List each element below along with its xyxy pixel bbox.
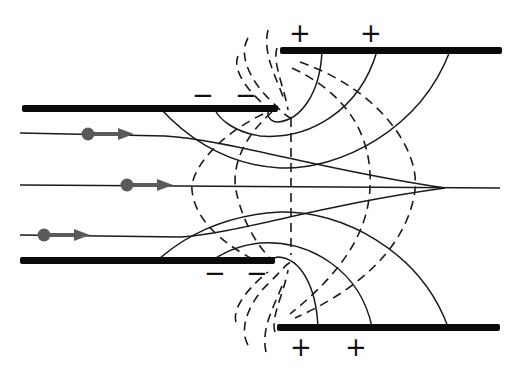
- diagram-canvas: [0, 0, 520, 369]
- particle: [38, 229, 91, 242]
- plate-right-upper: [280, 47, 502, 54]
- plus-sign-label: +: [289, 20, 311, 46]
- particle-dot: [38, 229, 51, 242]
- minus-sign-label: −: [246, 260, 268, 286]
- plus-sign-label: +: [345, 334, 367, 360]
- equipotential-lines: [192, 30, 416, 352]
- particle: [121, 179, 174, 192]
- arrow-head-icon: [118, 128, 134, 140]
- plus-sign-label: +: [360, 20, 382, 46]
- particle-trajectories: [20, 133, 500, 237]
- minus-sign-label: −: [235, 82, 257, 108]
- arrow-head-icon: [74, 229, 90, 241]
- plate-left-lower: [20, 257, 275, 264]
- particle: [82, 128, 135, 141]
- particle-dot: [82, 128, 95, 141]
- electrostatic-lens-diagram: −−++−−++: [0, 0, 520, 369]
- minus-sign-label: −: [204, 260, 226, 286]
- particle-dot: [121, 179, 134, 192]
- arrow-head-icon: [157, 179, 173, 191]
- plate-right-lower: [277, 324, 500, 331]
- plus-sign-label: +: [290, 334, 312, 360]
- minus-sign-label: −: [192, 82, 214, 108]
